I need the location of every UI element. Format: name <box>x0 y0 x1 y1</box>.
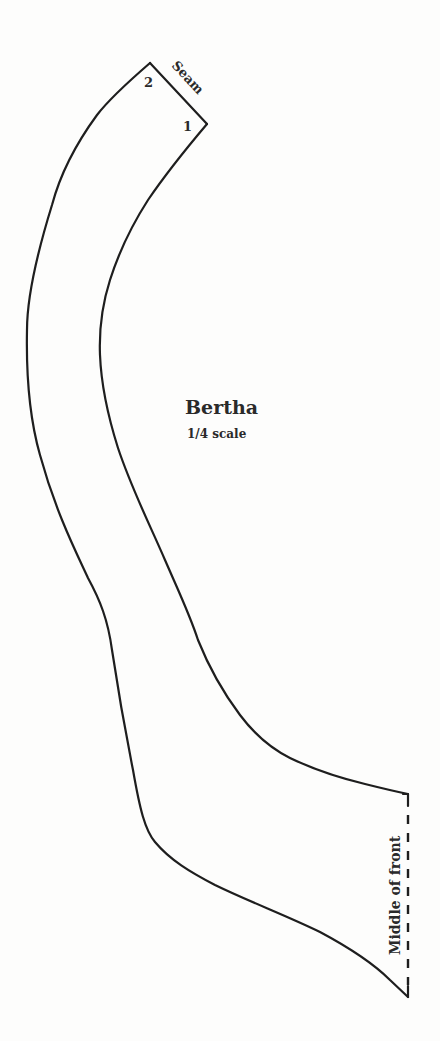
pattern-scale: 1/4 scale <box>187 427 246 441</box>
middle-of-front-label: Middle of front <box>387 835 403 955</box>
fold-end-top <box>403 794 408 806</box>
pattern-drawing: 2 1 Seam Middle of front <box>0 0 440 1041</box>
pattern-sheet: 2 1 Seam Middle of front Bertha 1/4 scal… <box>0 0 440 1041</box>
corner-label-2: 2 <box>144 75 153 90</box>
pattern-title: Bertha <box>185 396 258 418</box>
outer-edge-line <box>27 63 408 997</box>
corner-label-1: 1 <box>183 119 192 134</box>
inner-edge-line <box>100 124 408 794</box>
seam-label: Seam <box>169 58 207 98</box>
